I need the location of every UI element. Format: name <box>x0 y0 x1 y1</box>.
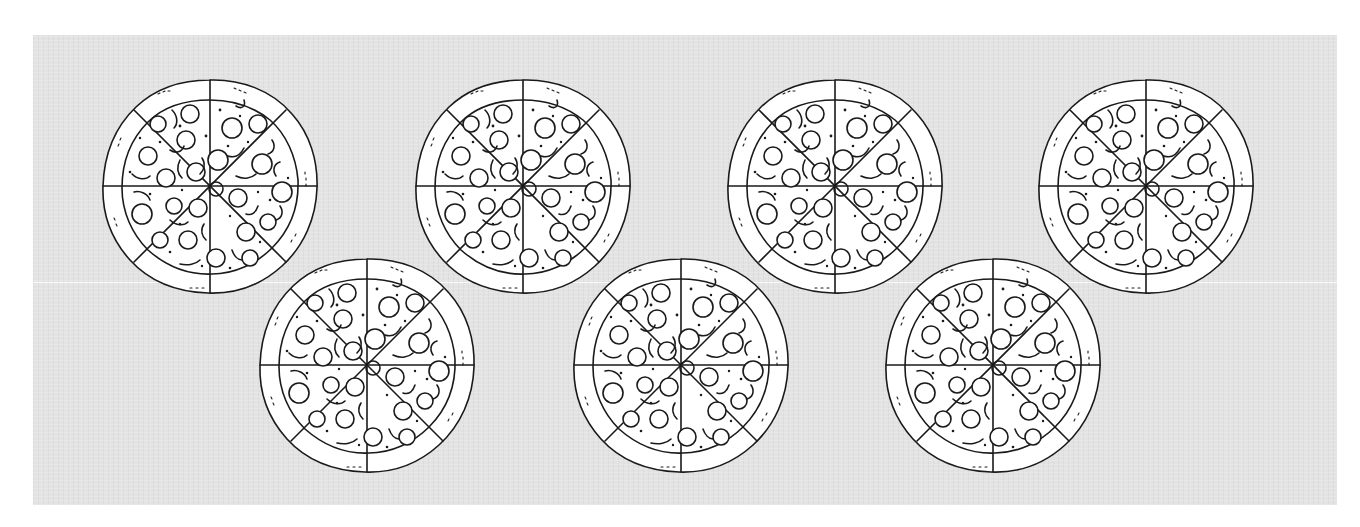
pizza-illustration <box>881 253 1105 477</box>
pizza-illustration <box>569 253 793 477</box>
pizza-illustration <box>255 253 479 477</box>
